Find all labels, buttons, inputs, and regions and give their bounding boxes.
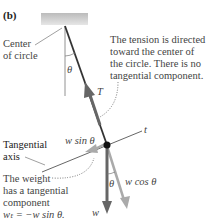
- weight-arrowhead: [102, 201, 112, 214]
- center-label-2: of circle: [3, 50, 38, 62]
- tangential-axis-label-1: Tangential: [3, 139, 47, 151]
- weight-label: w: [92, 207, 99, 219]
- tension-note-3: the circle. There is no: [110, 58, 201, 70]
- tension-note-2: toward the center of: [110, 46, 194, 58]
- tension-note-1: The tension is directed: [110, 34, 205, 46]
- tension-arrow: [90, 95, 100, 125]
- theta-top-label: θ: [67, 64, 72, 76]
- tension-note-4: tangential component.: [110, 70, 203, 82]
- w-cos-arrowhead: [120, 196, 130, 209]
- ceiling: [41, 13, 88, 25]
- w-sin-label: w sin θ: [65, 135, 95, 147]
- t-axis-label: t: [144, 124, 147, 136]
- pendulum-bob: [104, 142, 111, 149]
- center-label-1: Center: [3, 38, 31, 50]
- w-cos-arrow: [107, 146, 124, 200]
- theta-arc-top: [65, 53, 75, 56]
- tangential-axis-leader: [25, 157, 45, 165]
- weight-note-4: wₜ = −w sin θ.: [3, 209, 65, 221]
- weight-note-3: component: [3, 197, 50, 209]
- theta-bottom-label: θ: [109, 178, 114, 190]
- weight-note-2: has a tangential: [3, 185, 68, 197]
- tangential-axis-label-2: axis: [3, 151, 20, 163]
- weight-note-1: The weight: [3, 173, 51, 185]
- weight-note-leader: [52, 158, 94, 178]
- center-leader-line: [35, 28, 62, 45]
- tension-label: T: [97, 86, 103, 98]
- panel-label: (b): [3, 10, 16, 22]
- tension-arrowhead: [84, 82, 95, 98]
- w-cos-label: w cos θ: [125, 176, 156, 188]
